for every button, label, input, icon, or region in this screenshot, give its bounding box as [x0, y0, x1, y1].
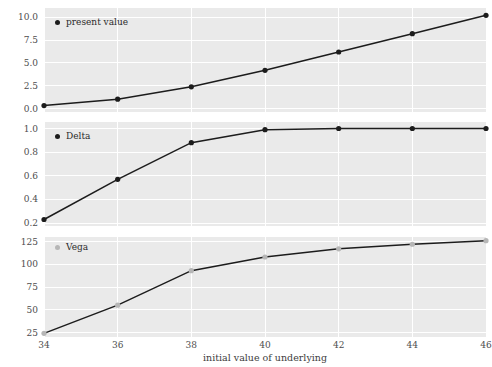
x-tick-label: 36	[112, 340, 123, 350]
data-point-marker	[189, 140, 194, 145]
legend-delta: Delta	[55, 131, 90, 141]
y-tick-label: 0.6	[0, 171, 38, 181]
data-point-marker	[410, 31, 415, 36]
data-point-marker	[262, 127, 267, 132]
data-point-marker	[410, 242, 415, 247]
chart-panel-vega	[44, 237, 486, 337]
y-tick-label: 5.0	[0, 58, 38, 68]
y-axis-ticks-panel-2: 255075100125	[0, 237, 38, 337]
x-tick-label: 46	[480, 340, 491, 350]
data-point-marker	[336, 126, 341, 131]
y-tick-label: 0.4	[0, 194, 38, 204]
series-line	[44, 15, 486, 105]
data-series-delta	[44, 122, 486, 226]
data-point-marker	[336, 49, 341, 54]
legend-marker-icon	[55, 245, 60, 250]
chart-panel-delta	[44, 122, 486, 226]
y-tick-label: 25	[0, 328, 38, 338]
y-tick-label: 50	[0, 305, 38, 315]
y-tick-label: 10.0	[0, 12, 38, 22]
data-point-marker	[115, 177, 120, 182]
x-tick-label: 40	[259, 340, 270, 350]
y-tick-label: 125	[0, 237, 38, 247]
data-point-marker	[115, 97, 120, 102]
legend-label: Vega	[66, 242, 88, 252]
x-tick-label: 34	[38, 340, 49, 350]
legend-vega: Vega	[55, 242, 88, 252]
y-tick-label: 0.0	[0, 104, 38, 114]
x-tick-label: 44	[407, 340, 418, 350]
data-series-vega	[44, 237, 486, 337]
x-tick-label: 38	[186, 340, 197, 350]
data-point-marker	[262, 68, 267, 73]
legend-present-value: present value	[55, 17, 128, 27]
data-point-marker	[189, 268, 194, 273]
legend-marker-icon	[55, 20, 60, 25]
y-tick-label: 0.2	[0, 218, 38, 228]
legend-label: present value	[66, 17, 128, 27]
data-point-marker	[41, 331, 46, 336]
legend-label: Delta	[66, 131, 90, 141]
figure: 0.02.55.07.510.0 present value 0.20.40.6…	[0, 0, 492, 367]
y-tick-label: 2.5	[0, 81, 38, 91]
legend-marker-icon	[55, 134, 60, 139]
data-point-marker	[262, 254, 267, 259]
y-tick-label: 1.0	[0, 124, 38, 134]
data-point-marker	[41, 217, 46, 222]
data-point-marker	[483, 238, 488, 243]
y-axis-ticks-panel-1: 0.20.40.60.81.0	[0, 122, 38, 226]
data-point-marker	[410, 126, 415, 131]
data-point-marker	[115, 303, 120, 308]
data-point-marker	[189, 84, 194, 89]
y-axis-ticks-panel-0: 0.02.55.07.510.0	[0, 8, 38, 112]
x-tick-label: 42	[333, 340, 344, 350]
data-point-marker	[483, 13, 488, 18]
data-point-marker	[336, 246, 341, 251]
data-point-marker	[41, 103, 46, 108]
y-tick-label: 75	[0, 282, 38, 292]
y-tick-label: 100	[0, 259, 38, 269]
data-point-marker	[483, 126, 488, 131]
y-tick-label: 0.8	[0, 147, 38, 157]
y-tick-label: 7.5	[0, 35, 38, 45]
series-line	[44, 129, 486, 220]
x-axis-label: initial value of underlying	[44, 352, 486, 363]
